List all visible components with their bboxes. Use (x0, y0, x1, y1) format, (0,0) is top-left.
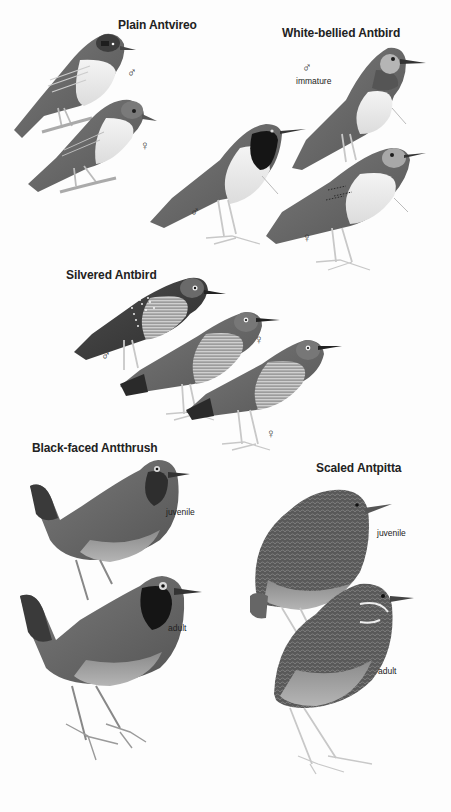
figure-caption-juvenile: juvenile (377, 528, 406, 538)
bird-white-bellied-antbird-female (266, 148, 426, 270)
male-symbol-icon: ♂ (127, 66, 137, 79)
female-symbol-icon: ♀ (140, 139, 150, 152)
male-symbol-icon: ♂ (101, 349, 111, 362)
species-title-white-bellied-antbird: White-bellied Antbird (282, 26, 400, 40)
female-symbol-icon: ♀ (266, 427, 276, 440)
species-title-silvered-antbird: Silvered Antbird (66, 268, 157, 282)
female-symbol-icon: ♀ (254, 333, 264, 346)
bird-white-bellied-antbird-immature (292, 48, 426, 170)
bird-scaled-antpitta-adult (274, 584, 414, 774)
figure-caption-adult: adult (168, 623, 186, 633)
bird-black-faced-antthrush-adult (20, 576, 202, 760)
species-title-black-faced-antthrush: Black-faced Antthrush (32, 441, 157, 455)
figure-caption-juvenile: juvenile (166, 507, 195, 517)
figure-caption-immature: immature (296, 76, 331, 86)
figure-caption-adult: adult (378, 666, 396, 676)
species-title-plain-antvireo: Plain Antvireo (118, 18, 197, 32)
field-guide-plate: Plain Antvireo White-bellied Antbird Sil… (0, 0, 451, 812)
bird-illustrations (0, 0, 451, 812)
male-symbol-icon: ♂ (302, 61, 312, 74)
male-symbol-icon: ♂ (190, 205, 200, 218)
species-title-scaled-antpitta: Scaled Antpitta (316, 461, 401, 475)
female-symbol-icon: ♀ (302, 231, 312, 244)
